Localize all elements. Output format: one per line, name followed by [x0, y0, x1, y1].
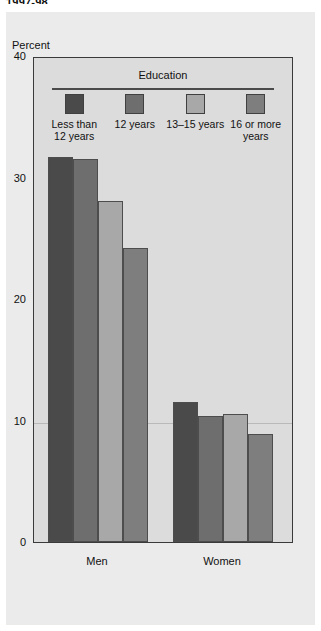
bar-men-0: [48, 157, 73, 542]
bar-women-2: [223, 414, 248, 542]
y-tick-30: 30: [14, 173, 26, 184]
bar-women-1: [198, 416, 223, 542]
plot-area: Education Less than 12 years12 years13–1…: [33, 57, 293, 543]
bar-women-3: [248, 434, 273, 542]
y-tick-20: 20: [14, 294, 26, 305]
legend-item-1: 12 years: [105, 94, 166, 142]
legend-swatch-icon-3: [246, 94, 265, 114]
category-label-women: Women: [172, 555, 272, 567]
y-tick-40: 40: [14, 51, 26, 62]
bar-men-3: [123, 248, 148, 542]
legend-item-0: Less than 12 years: [44, 94, 105, 142]
legend-label-0: Less than 12 years: [51, 119, 97, 142]
legend-label-2: 13–15 years: [166, 119, 224, 131]
legend-item-2: 13–15 years: [165, 94, 226, 142]
plot-inner: Education Less than 12 years12 years13–1…: [34, 58, 292, 542]
bar-men-2: [98, 201, 123, 542]
legend-items: Less than 12 years12 years13–15 years16 …: [44, 94, 286, 142]
chart-page: 1997-98 Percent 010203040 Education Less…: [0, 0, 321, 631]
legend-label-3: 16 or more years: [230, 119, 281, 142]
legend-swatch-icon-2: [186, 94, 205, 114]
y-tick-0: 0: [20, 537, 26, 548]
category-label-men: Men: [47, 555, 147, 567]
y-axis-tick-labels: 010203040: [0, 0, 30, 631]
legend-title: Education: [34, 69, 292, 81]
legend-label-1: 12 years: [115, 119, 155, 131]
legend-swatch-icon-0: [65, 94, 84, 114]
legend-swatch-icon-1: [125, 94, 144, 114]
legend-item-3: 16 or more years: [226, 94, 287, 142]
legend-divider: [52, 88, 274, 90]
y-tick-10: 10: [14, 416, 26, 427]
bar-women-0: [173, 402, 198, 542]
bar-men-1: [73, 159, 98, 542]
